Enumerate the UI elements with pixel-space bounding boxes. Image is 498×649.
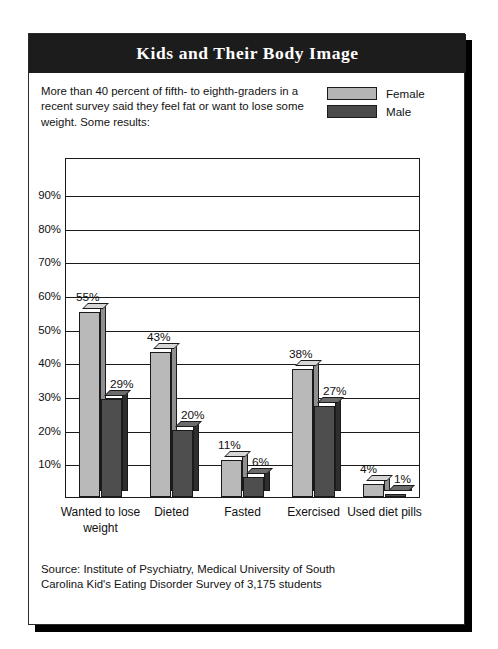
bar-group: 55%29% [66, 157, 137, 497]
bar-value-label: 38% [289, 347, 313, 361]
bar-value-label: 4% [360, 462, 377, 476]
bar-face [101, 399, 122, 497]
bar-female [79, 306, 100, 497]
y-axis-tick-label: 90% [38, 189, 61, 201]
y-axis-tick-label: 50% [38, 324, 61, 336]
y-axis-tick-labels: 10%20%30%40%50%60%70%80%90% [29, 158, 61, 498]
intro-paragraph: More than 40 percent of fifth- to eighth… [41, 84, 311, 130]
y-axis-tick-label: 40% [38, 357, 61, 369]
plot-frame: 55%29%43%20%11%6%38%27%4%1% [65, 158, 420, 498]
bar-value-label: 11% [218, 438, 241, 452]
bar-face [221, 460, 242, 497]
source-note: Source: Institute of Psychiatry, Medical… [41, 562, 371, 593]
page-title: Kids and Their Body Image [136, 43, 358, 64]
bar-value-label: 55% [76, 290, 100, 304]
bar-face [363, 484, 384, 497]
bar-male [314, 400, 335, 497]
bar-value-label: 6% [252, 455, 269, 469]
bar-side-face [122, 393, 128, 491]
x-axis-label: Used diet pills [341, 505, 428, 521]
legend-label-male: Male [386, 105, 411, 118]
bar-value-label: 27% [323, 384, 347, 398]
legend-item-male: Male [327, 105, 425, 118]
y-axis-tick-label: 20% [38, 425, 61, 437]
chart-plot-area: 10%20%30%40%50%60%70%80%90% 55%29%43%20%… [29, 151, 466, 549]
bar-value-label: 20% [181, 408, 205, 422]
legend-swatch-male-icon [327, 105, 377, 118]
y-axis-tick-label: 10% [38, 458, 61, 470]
infographic-card: Kids and Their Body Image More than 40 p… [28, 33, 465, 625]
bar-group: 4%1% [350, 157, 421, 497]
bar-face [314, 406, 335, 497]
bar-group: 43%20% [137, 157, 208, 497]
bar-face [292, 369, 313, 497]
bar-value-label: 1% [394, 472, 411, 486]
legend-label-female: Female [386, 87, 425, 100]
bar-female [292, 363, 313, 497]
y-axis-tick-label: 80% [38, 223, 61, 235]
bar-side-face [193, 424, 199, 491]
bar-face [79, 312, 100, 497]
bar-female [221, 454, 242, 497]
bar-face [150, 352, 171, 497]
bar-male [101, 393, 122, 497]
bar-value-label: 29% [110, 377, 134, 391]
legend-item-female: Female [327, 87, 425, 100]
bar-male [172, 424, 193, 497]
bar-group: 38%27% [279, 157, 350, 497]
chart-legend: Female Male [327, 87, 425, 123]
intro-band: More than 40 percent of fifth- to eighth… [29, 73, 466, 151]
bar-group: 11%6% [208, 157, 279, 497]
x-axis-category-labels: Wanted to lose weightDietedFastedExercis… [65, 501, 420, 547]
bar-female [150, 346, 171, 497]
y-axis-tick-label: 70% [38, 256, 61, 268]
y-axis-tick-label: 60% [38, 290, 61, 302]
bar-face [172, 430, 193, 497]
bar-male [385, 488, 406, 497]
bar-face [385, 494, 406, 497]
bar-value-label: 43% [147, 330, 171, 344]
bar-side-face [335, 400, 341, 491]
bar-male [243, 471, 264, 497]
title-bar: Kids and Their Body Image [29, 34, 466, 73]
bar-female [363, 478, 384, 497]
bar-face [243, 477, 264, 497]
legend-swatch-female-icon [327, 87, 377, 100]
y-axis-tick-label: 30% [38, 391, 61, 403]
